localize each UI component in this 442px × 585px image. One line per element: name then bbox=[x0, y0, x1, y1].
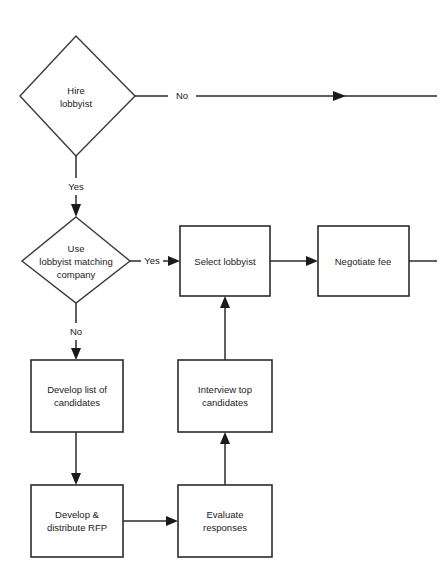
edge-label-hire-yes: Yes bbox=[68, 181, 84, 192]
node-use-matching-company-label-line3: company bbox=[57, 269, 96, 280]
node-develop-list-label-line2: candidates bbox=[54, 397, 100, 408]
flowchart-svg: No Yes Yes No bbox=[0, 0, 442, 585]
edge-list-to-rfp-arrowhead bbox=[71, 473, 81, 485]
node-develop-list[interactable]: Develop list of candidates bbox=[31, 360, 123, 432]
node-evaluate-responses-label-line2: responses bbox=[203, 522, 247, 533]
edge-rfp-to-evaluate bbox=[123, 516, 178, 526]
node-interview-top-label-line1: Interview top bbox=[198, 384, 252, 395]
node-hire-lobbyist-diamond[interactable] bbox=[20, 36, 135, 156]
node-hire-lobbyist-label-line2: lobbyist bbox=[60, 98, 93, 109]
edge-matching-yes: Yes bbox=[130, 255, 180, 266]
edge-evaluate-to-interview-arrowhead bbox=[220, 432, 230, 444]
edge-interview-to-select bbox=[220, 296, 230, 360]
node-hire-lobbyist[interactable]: Hire lobbyist bbox=[20, 36, 135, 156]
edge-evaluate-to-interview bbox=[220, 432, 230, 485]
edge-matching-no: No bbox=[70, 303, 82, 360]
node-use-matching-company-label-line2: lobbyist matching bbox=[39, 256, 112, 267]
edge-matching-yes-arrowhead bbox=[168, 256, 180, 266]
node-use-matching-company-label-line1: Use bbox=[68, 243, 85, 254]
edge-hire-no: No bbox=[135, 90, 437, 101]
edge-label-matching-no: No bbox=[70, 326, 82, 337]
node-develop-rfp[interactable]: Develop & distribute RFP bbox=[31, 485, 123, 557]
flowchart-canvas: No Yes Yes No bbox=[0, 0, 442, 585]
node-select-lobbyist-label-line1: Select lobbyist bbox=[194, 256, 256, 267]
edge-list-to-rfp bbox=[71, 432, 81, 485]
node-interview-top[interactable]: Interview top candidates bbox=[178, 360, 272, 432]
edge-select-to-negotiate-arrowhead bbox=[306, 256, 318, 266]
edge-label-matching-yes: Yes bbox=[144, 255, 160, 266]
edge-matching-no-arrowhead bbox=[71, 348, 81, 360]
node-develop-rfp-label-line2: distribute RFP bbox=[47, 522, 107, 533]
node-select-lobbyist[interactable]: Select lobbyist bbox=[180, 226, 270, 296]
edge-rfp-to-evaluate-arrowhead bbox=[166, 516, 178, 526]
edge-hire-yes: Yes bbox=[68, 156, 84, 217]
node-hire-lobbyist-label-line1: Hire bbox=[67, 85, 84, 96]
node-use-matching-company[interactable]: Use lobbyist matching company bbox=[22, 217, 130, 303]
node-negotiate-fee[interactable]: Negotiate fee bbox=[318, 226, 409, 296]
node-evaluate-responses[interactable]: Evaluate responses bbox=[178, 485, 272, 557]
node-develop-list-label-line1: Develop list of bbox=[47, 384, 107, 395]
edge-hire-yes-arrowhead bbox=[71, 204, 81, 217]
node-evaluate-responses-label-line1: Evaluate bbox=[207, 509, 244, 520]
edge-hire-no-arrowhead bbox=[333, 91, 346, 101]
edge-label-hire-no: No bbox=[176, 90, 188, 101]
edge-select-to-negotiate bbox=[270, 256, 318, 266]
node-negotiate-fee-label-line1: Negotiate fee bbox=[335, 256, 392, 267]
node-develop-rfp-label-line1: Develop & bbox=[55, 509, 99, 520]
node-interview-top-label-line2: candidates bbox=[202, 397, 248, 408]
edge-interview-to-select-arrowhead bbox=[220, 296, 230, 308]
